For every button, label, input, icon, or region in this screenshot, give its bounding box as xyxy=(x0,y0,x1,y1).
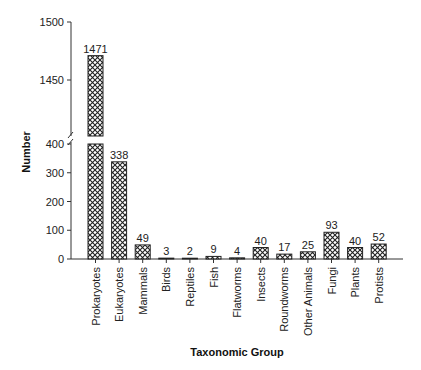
labels: 1471Prokaryotes338Eukaryotes49Mammals3Bi… xyxy=(83,43,385,336)
data-label: 17 xyxy=(278,241,290,253)
data-label: 4 xyxy=(234,245,240,257)
data-label: 40 xyxy=(255,235,267,247)
data-label: 40 xyxy=(349,235,361,247)
bar-eukaryotes xyxy=(112,162,127,259)
y-tick-label: 300 xyxy=(46,167,64,179)
data-label: 2 xyxy=(187,245,193,257)
x-category-label: Fungi xyxy=(326,267,338,295)
data-label: 49 xyxy=(137,232,149,244)
x-category-label: Fish xyxy=(208,267,220,288)
bar-mammals xyxy=(135,245,150,259)
x-axis-title: Taxonomic Group xyxy=(190,346,284,358)
data-label: 1471 xyxy=(83,43,107,55)
bar-roundworms xyxy=(277,254,292,259)
data-label: 52 xyxy=(373,231,385,243)
x-category-label: Prokaryotes xyxy=(90,267,102,326)
x-category-label: Reptiles xyxy=(184,267,196,307)
bar-birds xyxy=(159,258,174,259)
bar-prokaryotes xyxy=(88,56,103,259)
y-tick-label: 1450 xyxy=(40,74,64,86)
bar-insects xyxy=(253,248,268,260)
y-tick-label: 1500 xyxy=(40,16,64,28)
data-label: 9 xyxy=(210,243,216,255)
data-label: 3 xyxy=(163,245,169,257)
y-tick-label: 400 xyxy=(46,138,64,150)
x-category-label: Roundworms xyxy=(278,267,290,332)
bar-protists xyxy=(371,244,386,259)
x-category-label: Insects xyxy=(255,267,267,302)
bar-flatworms xyxy=(230,258,245,259)
y-axis-title: Number xyxy=(20,131,32,173)
bar-fungi xyxy=(324,232,339,259)
bar-reptiles xyxy=(182,258,197,259)
bar-plants xyxy=(348,248,363,260)
y-tick-label: 100 xyxy=(46,224,64,236)
x-category-label: Other Animals xyxy=(302,267,314,337)
bar-fish xyxy=(206,256,221,259)
bars xyxy=(88,56,386,259)
data-label: 338 xyxy=(110,149,128,161)
data-label: 25 xyxy=(302,239,314,251)
y-tick-label: 0 xyxy=(58,253,64,265)
x-category-label: Flatworms xyxy=(231,267,243,318)
x-category-label: Eukaryotes xyxy=(113,267,125,323)
bar-other-animals xyxy=(300,252,315,259)
x-category-label: Protists xyxy=(373,267,385,304)
y-tick-label: 200 xyxy=(46,196,64,208)
x-category-label: Mammals xyxy=(137,267,149,315)
axes: 010020030040014501500NumberTaxonomic Gro… xyxy=(20,16,403,358)
x-category-label: Birds xyxy=(160,267,172,293)
data-label: 93 xyxy=(325,219,337,231)
x-category-label: Plants xyxy=(349,267,361,298)
bar-chart: 010020030040014501500NumberTaxonomic Gro… xyxy=(0,0,421,370)
